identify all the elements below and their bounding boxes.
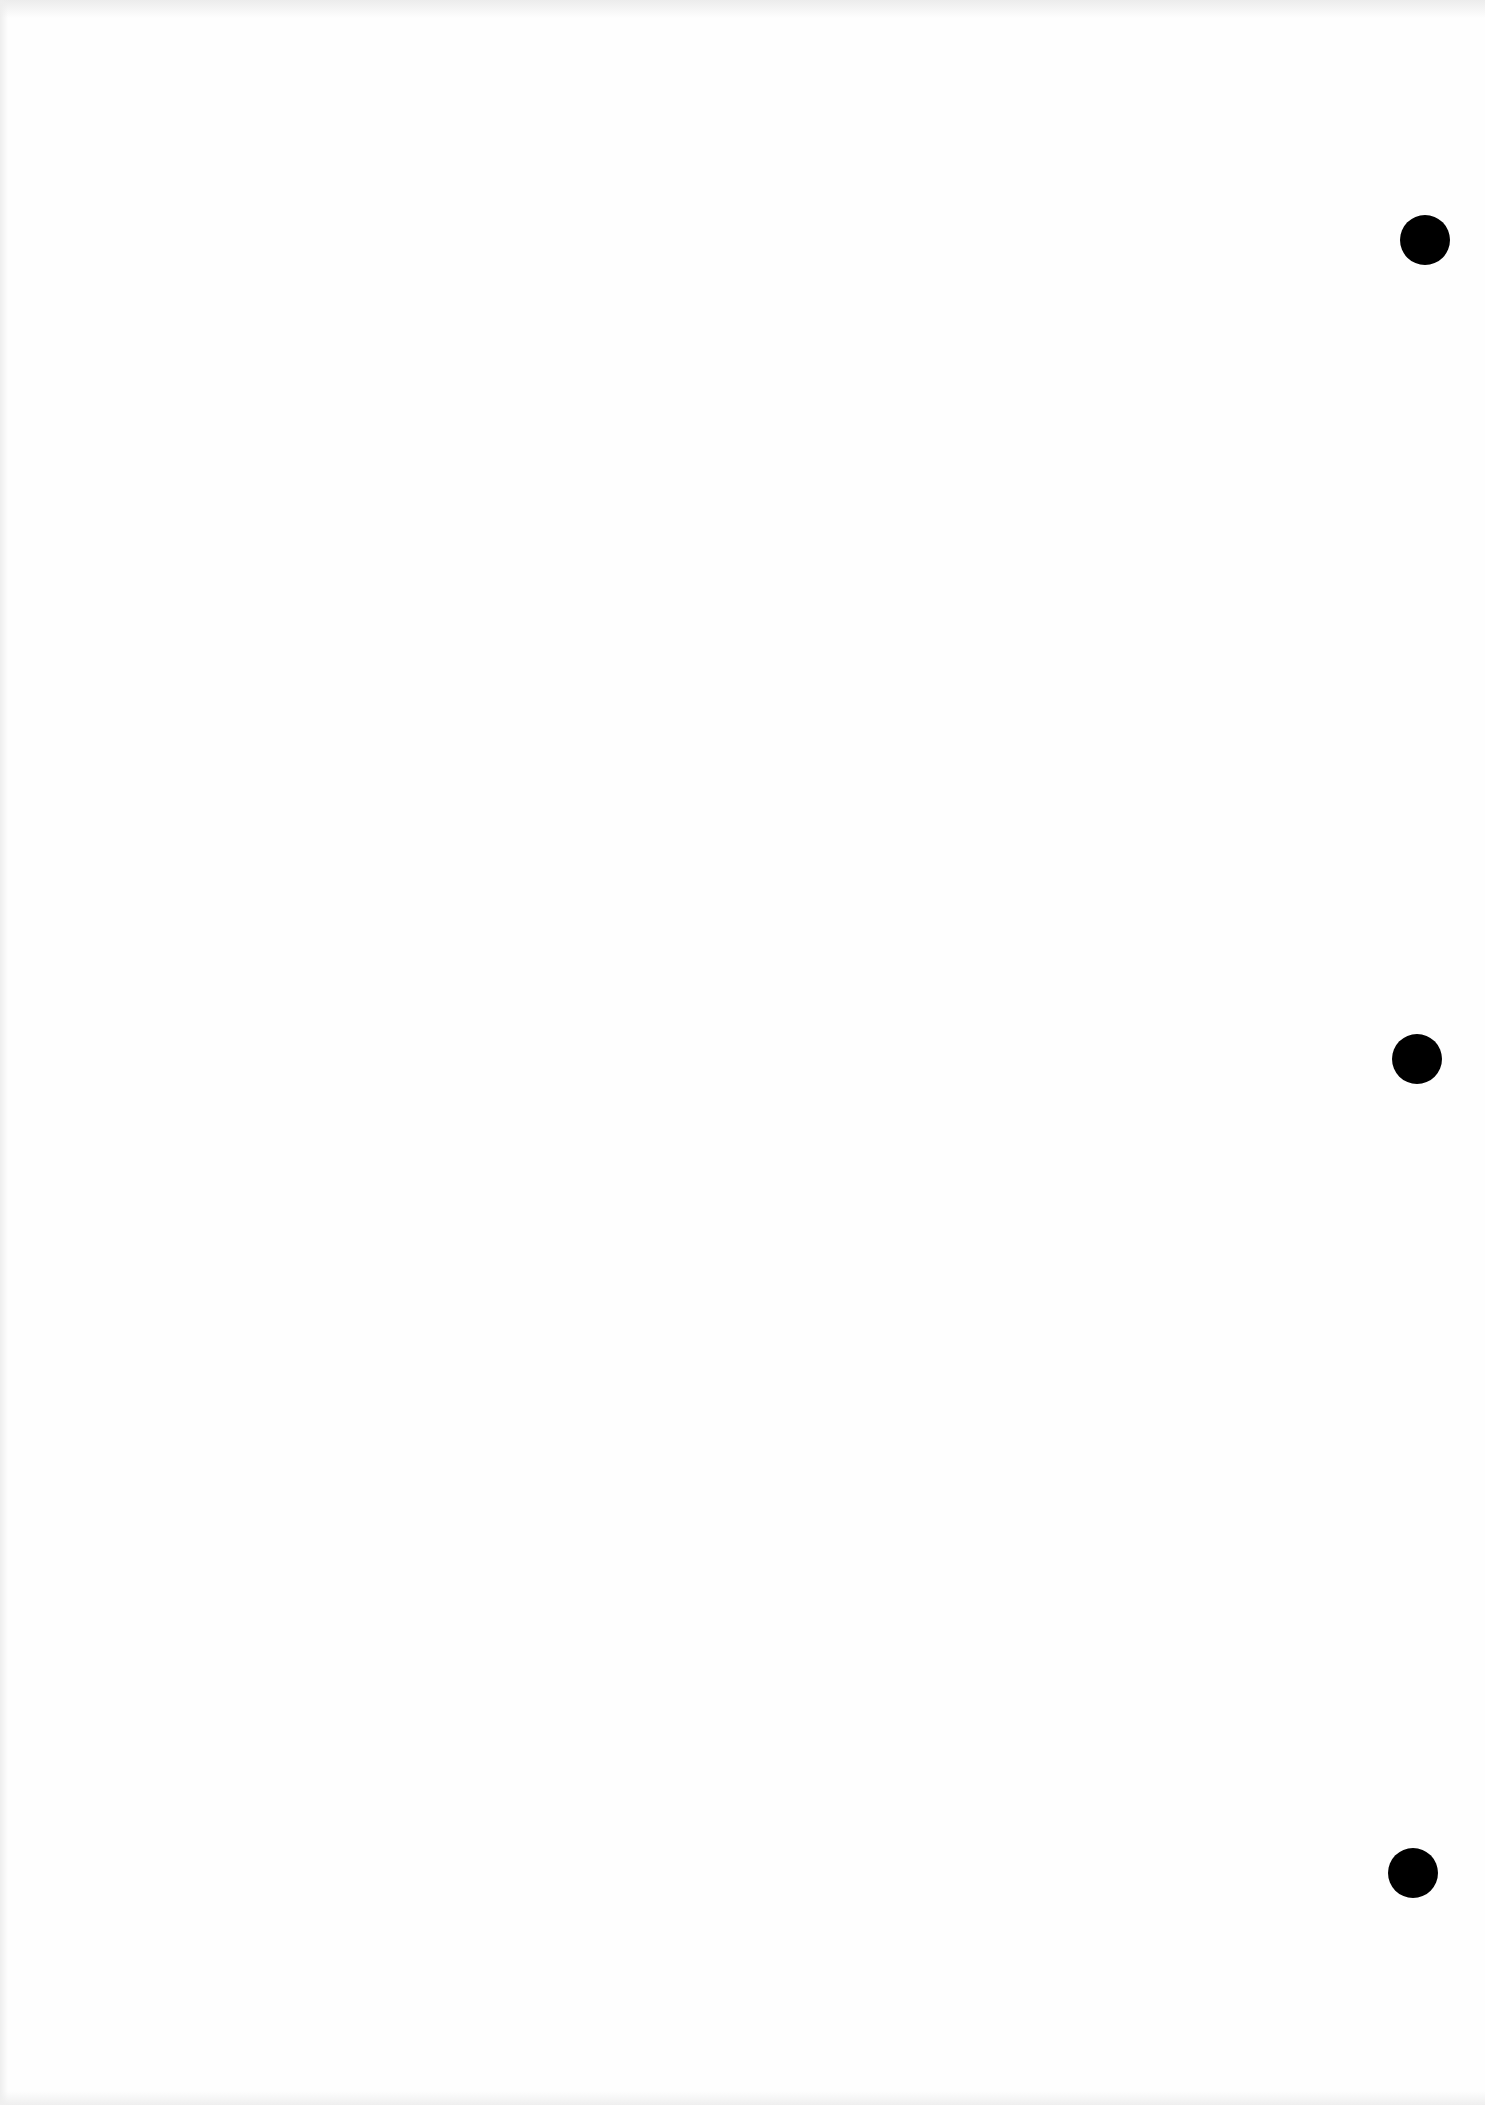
punch-hole-middle <box>1392 1034 1442 1084</box>
scanned-page <box>0 0 1485 2105</box>
punch-hole-top <box>1400 215 1450 265</box>
page-content <box>0 0 1485 2105</box>
punch-hole-bottom <box>1388 1848 1438 1898</box>
